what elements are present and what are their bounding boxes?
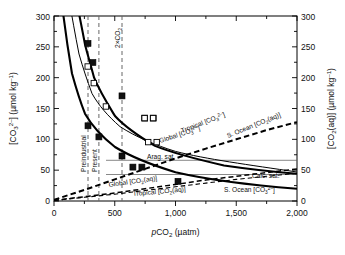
y2tick-300: 300	[301, 12, 315, 22]
ytick-50: 50	[41, 165, 51, 175]
data-point	[119, 153, 125, 159]
figure-container: 0 50 100 150 200 250 300 0 50 100 150 20…	[0, 0, 345, 255]
data-point	[142, 115, 147, 120]
ytick-150: 150	[36, 104, 50, 114]
xtick-500: 500	[108, 208, 122, 218]
data-point	[139, 164, 145, 170]
ytick-300: 300	[36, 12, 50, 22]
ytick-250: 250	[36, 42, 50, 52]
chart-svg: 0 50 100 150 200 250 300 0 50 100 150 20…	[0, 0, 345, 255]
y-axis-left-title: [CO32–] (µmol kg–1)	[7, 72, 20, 145]
xtick-2000: 2,000	[286, 208, 308, 218]
data-point	[96, 134, 102, 140]
ytick-200: 200	[36, 73, 50, 83]
svg-text:[CO2(aq)] (µmol kg–1): [CO2(aq)] (µmol kg–1)	[325, 68, 337, 149]
y-axis-right-title: [CO2(aq)] (µmol kg–1)	[325, 68, 337, 149]
data-point	[130, 164, 136, 170]
xtick-1000: 1,000	[165, 208, 187, 218]
data-point	[175, 178, 181, 184]
y2tick-200: 200	[301, 73, 315, 83]
y2tick-50: 50	[301, 165, 311, 175]
annotation-arag-sat: Arag. sat.	[147, 153, 175, 161]
svg-text:pCO2 (µatm): pCO2 (µatm)	[150, 227, 199, 238]
y2tick-150: 150	[301, 104, 315, 114]
data-point	[150, 115, 155, 120]
ytick-100: 100	[36, 134, 50, 144]
data-point	[85, 64, 90, 69]
y2tick-250: 250	[301, 42, 315, 52]
data-point	[85, 40, 91, 46]
data-point	[146, 139, 151, 144]
yright-a: [CO	[326, 133, 336, 149]
xtick-0: 0	[52, 208, 57, 218]
svg-text:[CO32–] (µmol kg–1): [CO32–] (µmol kg–1)	[7, 72, 20, 145]
yright-b: (aq)] (µmol kg	[326, 78, 336, 131]
y2tick-0: 0	[301, 196, 306, 206]
data-point	[103, 104, 108, 109]
annotation-calc-sat: Calc. sat.	[252, 172, 280, 179]
yleft-b: ] (µmol kg	[8, 82, 18, 120]
data-point	[119, 93, 125, 99]
data-point	[91, 80, 96, 85]
label-preindustrial: Preindustrial	[80, 135, 87, 172]
yleft-c: )	[8, 72, 18, 75]
yleft-a: [CO	[8, 129, 18, 145]
x-axis-title: pCO2 (µatm)	[150, 227, 199, 238]
data-point	[85, 123, 91, 129]
label-present: Present	[91, 149, 98, 172]
xtick-1500: 1,500	[226, 208, 248, 218]
yright-c: )	[326, 68, 336, 71]
y2tick-100: 100	[301, 134, 315, 144]
xaxis-units: (µatm)	[175, 227, 200, 237]
xaxis-co: CO	[156, 227, 169, 237]
ytick-0: 0	[45, 196, 50, 206]
